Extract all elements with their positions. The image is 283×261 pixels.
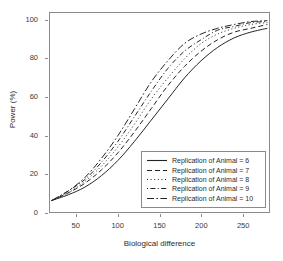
legend-line-sample-3 bbox=[146, 175, 168, 184]
legend-item: Replication of Animal = 6 bbox=[146, 156, 260, 165]
x-tick-mark bbox=[76, 214, 77, 217]
y-tick-mark bbox=[45, 58, 48, 59]
x-tick-mark bbox=[201, 214, 202, 217]
x-tick-mark bbox=[118, 214, 119, 217]
y-tick-mark bbox=[45, 136, 48, 137]
legend-label: Replication of Animal = 8 bbox=[172, 176, 249, 183]
legend-label: Replication of Animal = 10 bbox=[172, 195, 253, 202]
legend-line-sample-2 bbox=[146, 166, 168, 175]
y-tick-label: 20 bbox=[20, 171, 38, 179]
legend-line-sample-1 bbox=[146, 156, 168, 165]
x-axis-title: Biological difference bbox=[49, 239, 270, 248]
legend-item: Replication of Animal = 7 bbox=[146, 165, 260, 174]
y-tick-mark bbox=[45, 97, 48, 98]
y-tick-label: 60 bbox=[20, 93, 38, 101]
y-tick-label: 0 bbox=[20, 209, 38, 217]
x-tick-label: 150 bbox=[153, 222, 166, 230]
y-tick-mark bbox=[45, 174, 48, 175]
legend-label: Replication of Animal = 6 bbox=[172, 157, 249, 164]
x-tick-label: 100 bbox=[111, 222, 124, 230]
legend-label: Replication of Animal = 9 bbox=[172, 185, 249, 192]
legend: Replication of Animal = 6Replication of … bbox=[141, 151, 266, 208]
y-axis-title: Power (%) bbox=[8, 65, 17, 155]
legend-line-sample-5 bbox=[146, 194, 168, 203]
x-tick-label: 50 bbox=[72, 222, 80, 230]
legend-item: Replication of Animal = 10 bbox=[146, 194, 260, 203]
y-tick-mark bbox=[45, 213, 48, 214]
legend-line-sample-4 bbox=[146, 184, 168, 193]
x-tick-label: 250 bbox=[237, 222, 250, 230]
legend-item: Replication of Animal = 8 bbox=[146, 175, 260, 184]
power-curve-figure: Power (%) 020406080100 50100150200250 Bi… bbox=[0, 0, 283, 261]
y-tick-label: 40 bbox=[20, 132, 38, 140]
legend-item: Replication of Animal = 9 bbox=[146, 184, 260, 193]
x-tick-label: 200 bbox=[195, 222, 208, 230]
y-tick-label: 100 bbox=[20, 16, 38, 24]
y-tick-mark bbox=[45, 20, 48, 21]
y-tick-label: 80 bbox=[20, 55, 38, 63]
legend-label: Replication of Animal = 7 bbox=[172, 167, 249, 174]
x-tick-mark bbox=[243, 214, 244, 217]
x-tick-mark bbox=[160, 214, 161, 217]
